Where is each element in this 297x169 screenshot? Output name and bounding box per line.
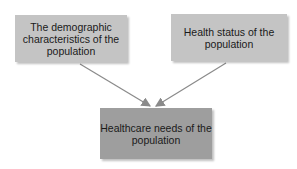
node-healthcare-needs: Healthcare needs of the population bbox=[100, 108, 212, 159]
node-demographic-characteristics: The demographic characteristics of the p… bbox=[15, 15, 127, 62]
arrow-demographics-to-needs bbox=[80, 64, 150, 106]
node-label: The demographic characteristics of the p… bbox=[15, 21, 127, 57]
node-health-status: Health status of the population bbox=[171, 14, 287, 61]
node-label: Healthcare needs of the population bbox=[100, 122, 212, 146]
node-label: Health status of the population bbox=[171, 26, 287, 50]
arrow-health-status-to-needs bbox=[156, 63, 226, 106]
